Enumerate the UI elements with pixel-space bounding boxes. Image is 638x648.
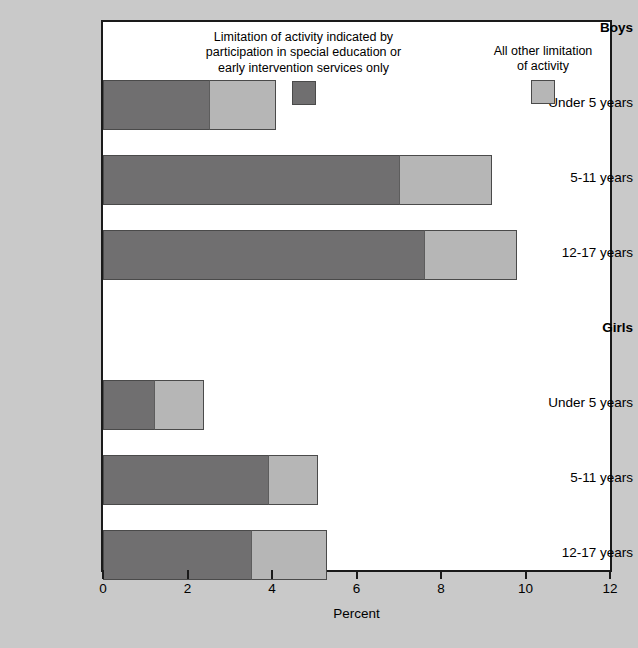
plot-area bbox=[101, 20, 612, 572]
x-tick-label-0: 0 bbox=[99, 581, 107, 596]
bar-segment-special-education bbox=[103, 455, 268, 505]
group-label-girls: Girls bbox=[537, 321, 633, 335]
x-tick-2 bbox=[187, 570, 189, 579]
x-tick-8 bbox=[440, 570, 442, 579]
x-tick-label-2: 2 bbox=[184, 581, 192, 596]
x-tick-label-4: 4 bbox=[268, 581, 276, 596]
category-label-under-5-years: Under 5 years bbox=[537, 96, 633, 110]
x-tick-4 bbox=[271, 570, 273, 579]
bar-segment-all-other bbox=[154, 380, 205, 430]
x-tick-6 bbox=[356, 570, 358, 579]
category-label-5-11-years: 5-11 years bbox=[537, 171, 633, 185]
bar-12-17-years bbox=[103, 230, 517, 280]
bar-segment-all-other bbox=[268, 455, 319, 505]
bar-segment-special-education bbox=[103, 80, 209, 130]
bar-segment-all-other bbox=[209, 80, 277, 130]
x-tick-label-12: 12 bbox=[602, 581, 617, 596]
x-axis-title: Percent bbox=[101, 606, 612, 621]
bar-segment-all-other bbox=[424, 230, 517, 280]
stacked-bar-chart: BoysUnder 5 years5-11 years12-17 yearsGi… bbox=[0, 0, 638, 648]
bar-under-5-years bbox=[103, 380, 204, 430]
x-tick-10 bbox=[525, 570, 527, 579]
bar-under-5-years bbox=[103, 80, 276, 130]
x-axis: 024681012 bbox=[101, 570, 612, 610]
category-label-12-17-years: 12-17 years bbox=[537, 246, 633, 260]
bar-segment-special-education bbox=[103, 155, 399, 205]
category-label-under-5-years: Under 5 years bbox=[537, 396, 633, 410]
x-tick-12 bbox=[609, 570, 611, 579]
bar-5-11-years bbox=[103, 155, 492, 205]
x-tick-0 bbox=[102, 570, 104, 579]
group-label-boys: Boys bbox=[537, 21, 633, 35]
x-tick-label-6: 6 bbox=[353, 581, 361, 596]
x-tick-label-8: 8 bbox=[437, 581, 445, 596]
x-tick-label-10: 10 bbox=[518, 581, 533, 596]
bar-segment-special-education bbox=[103, 230, 424, 280]
bar-segment-special-education bbox=[103, 380, 154, 430]
bar-5-11-years bbox=[103, 455, 318, 505]
bar-segment-all-other bbox=[399, 155, 492, 205]
category-label-5-11-years: 5-11 years bbox=[537, 471, 633, 485]
category-label-12-17-years: 12-17 years bbox=[537, 546, 633, 560]
